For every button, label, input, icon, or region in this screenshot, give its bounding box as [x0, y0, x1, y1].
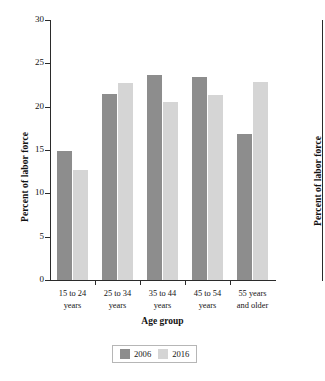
x-axis-tick — [95, 281, 96, 285]
y-axis-tick-label: 20 — [4, 101, 44, 111]
y-axis-tick — [45, 280, 51, 281]
x-axis-tick — [230, 281, 231, 285]
x-axis-tick — [185, 281, 186, 285]
legend-swatch-icon — [158, 349, 168, 359]
y-axis-tick-label: 0 — [4, 274, 44, 284]
y-axis-tick-label: 15 — [4, 144, 44, 154]
y-axis-tick-label: 5 — [4, 231, 44, 241]
y-axis-tick-label: 30 — [4, 14, 44, 24]
legend-item-2016: 2016 — [158, 349, 189, 359]
x-axis-line — [50, 280, 276, 281]
adjacent-figure-y-axis-title: Percent of labor force — [313, 136, 323, 226]
y-axis-tick-label: 25 — [4, 57, 44, 67]
x-axis-category-line: and older — [224, 300, 281, 312]
bar-2006-4 — [192, 77, 207, 280]
bar-2006-3 — [147, 75, 162, 280]
x-axis-category-label: 55 yearsand older — [224, 288, 281, 311]
x-axis-tick — [140, 281, 141, 285]
bar-2006-1 — [57, 151, 72, 280]
bar-2016-5 — [253, 82, 268, 280]
x-axis-title: Age group — [0, 316, 325, 326]
legend-label: 2016 — [172, 349, 189, 359]
legend-label: 2006 — [134, 349, 151, 359]
plot-area — [50, 20, 275, 280]
x-axis-category-line: 55 years — [224, 288, 281, 300]
bar-2016-4 — [208, 95, 223, 280]
bar-2016-1 — [73, 170, 88, 280]
y-axis-tick-label: 10 — [4, 187, 44, 197]
legend-swatch-icon — [120, 349, 130, 359]
bar-chart-figure: Percent of labor force 051015202530 15 t… — [0, 0, 325, 381]
bar-2006-2 — [102, 94, 117, 280]
bar-2016-2 — [118, 83, 133, 280]
chart-legend: 20062016 — [112, 345, 197, 363]
bar-2006-5 — [237, 134, 252, 280]
legend-item-2006: 2006 — [120, 349, 151, 359]
bar-2016-3 — [163, 102, 178, 280]
